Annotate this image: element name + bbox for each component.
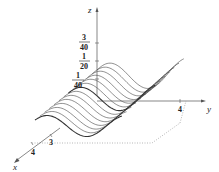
z-tick-3-40: 3 40 [79, 33, 90, 52]
svg-text:40: 40 [74, 81, 82, 90]
x-axis: 3 4 x [12, 128, 60, 172]
x-tick-4: 4 [31, 148, 35, 157]
surface-curve [78, 76, 165, 103]
svg-text:1: 1 [76, 71, 80, 80]
surface-curves [35, 59, 184, 137]
surface-curve [87, 68, 174, 96]
svg-text:20: 20 [80, 62, 88, 71]
svg-text:40: 40 [80, 43, 88, 52]
surface-curve [40, 111, 127, 132]
y-tick-4: 4 [178, 105, 182, 114]
surface-plot: z 3 40 1 20 1 40 4 y 3 4 x [0, 0, 219, 172]
z-axis-label: z [87, 5, 92, 15]
surface-curve [73, 81, 160, 107]
z-axis: z [87, 5, 99, 96]
z-tick-1-20: 1 20 [79, 52, 90, 71]
y-axis-label: y [206, 104, 211, 114]
surface-curve [97, 59, 184, 89]
x-tick-3: 3 [49, 138, 53, 147]
y-axis: 4 y [97, 99, 211, 114]
svg-text:3: 3 [82, 33, 86, 42]
surface-curve [92, 63, 179, 92]
svg-text:1: 1 [82, 52, 86, 61]
surface-curve [35, 116, 122, 137]
x-axis-label: x [12, 162, 17, 172]
